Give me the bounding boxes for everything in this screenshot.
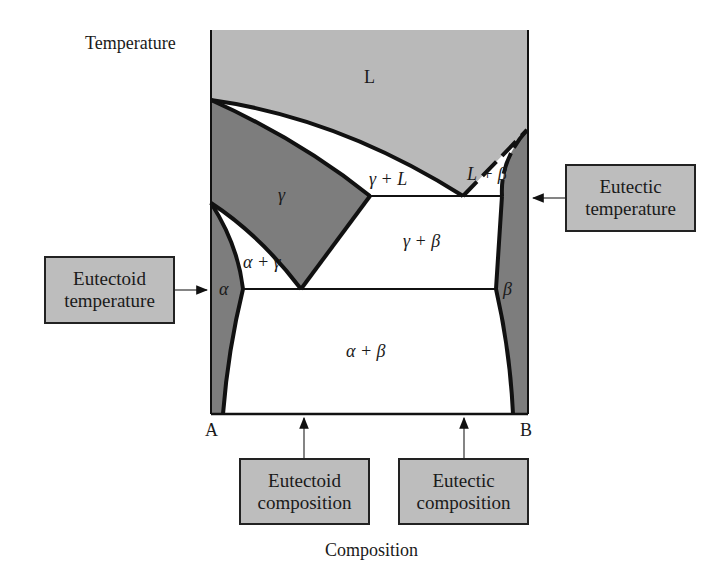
callout-line: temperature: [585, 198, 676, 220]
callout-line: Eutectic: [599, 176, 661, 198]
label-gamma-plus-liquid: γ + L: [369, 169, 407, 189]
component-b: B: [520, 420, 532, 440]
label-liquid-plus-beta: L + β: [466, 164, 507, 184]
label-beta: β: [502, 279, 512, 299]
label-alpha: α: [219, 279, 229, 299]
label-gamma-plus-beta: γ + β: [403, 231, 440, 251]
callout-eutectoid-temperature: Eutectoid temperature: [44, 256, 175, 324]
callout-eutectoid-composition: Eutectoid composition: [239, 458, 370, 525]
label-gamma: γ: [278, 185, 286, 205]
callout-eutectic-temperature: Eutectic temperature: [565, 164, 696, 232]
callout-line: composition: [258, 492, 352, 514]
callout-eutectic-composition: Eutectic composition: [398, 458, 529, 525]
callout-line: Eutectic: [432, 470, 494, 492]
component-a: A: [205, 420, 218, 440]
callout-line: Eutectoid: [73, 268, 146, 290]
label-alpha-plus-beta: α + β: [346, 341, 386, 361]
x-axis-label: Composition: [325, 541, 418, 559]
callout-line: composition: [417, 492, 511, 514]
callout-line: Eutectoid: [268, 470, 341, 492]
callout-line: temperature: [64, 290, 155, 312]
label-liquid: L: [364, 67, 375, 87]
label-alpha-plus-gamma: α + γ: [243, 252, 282, 272]
